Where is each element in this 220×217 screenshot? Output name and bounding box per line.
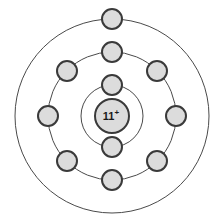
electron-shell1-1 — [102, 75, 122, 95]
electron-shell2-2 — [147, 61, 167, 81]
electron-shell2-6 — [57, 151, 77, 171]
atom-diagram: 11+ — [0, 0, 220, 217]
electron-shell3-1 — [102, 9, 122, 29]
electron-shell2-5 — [102, 170, 122, 190]
electron-shell2-7 — [38, 106, 58, 126]
electron-shell2-1 — [102, 42, 122, 62]
nucleus-charge-sign: + — [114, 108, 119, 117]
nucleus-proton-count: 11 — [103, 110, 115, 122]
electron-shell2-4 — [147, 151, 167, 171]
electron-shell2-3 — [166, 106, 186, 126]
electron-shell1-2 — [102, 137, 122, 157]
atom-svg: 11+ — [0, 0, 220, 217]
electron-shell2-8 — [57, 61, 77, 81]
nucleus-group: 11+ — [95, 99, 129, 133]
